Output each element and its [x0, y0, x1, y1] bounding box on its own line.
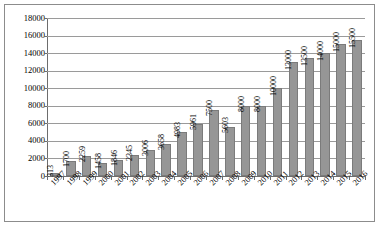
bar-value-label: 10000: [270, 76, 278, 96]
y-tick-label: 14000: [24, 49, 45, 57]
bar-slot: 2345: [127, 18, 143, 176]
y-tickmark: [44, 36, 47, 37]
bar-value-label: 1458: [95, 153, 103, 169]
bar-slot: 15000: [333, 18, 349, 176]
bar-value-label: 1700: [63, 151, 71, 167]
bar-slot: 7500: [206, 18, 222, 176]
bar: [305, 58, 315, 177]
bar: [209, 110, 219, 176]
bar: [289, 62, 299, 176]
y-tick-label: 10000: [24, 84, 45, 92]
bar-value-label: 2259: [79, 146, 87, 162]
y-tickmark: [44, 71, 47, 72]
y-tickmark: [44, 106, 47, 107]
bar-slot: 10000: [270, 18, 286, 176]
y-tickmark: [44, 18, 47, 19]
bar-series: 3131700225914581846234530063658498359617…: [47, 18, 365, 176]
bar-value-label: 5961: [190, 114, 198, 130]
bar-value-label: 8000: [238, 96, 246, 112]
bar-value-label: 2345: [126, 145, 134, 161]
bar-value-label: 3658: [158, 134, 166, 150]
bar-slot: 13500: [301, 18, 317, 176]
y-tick-label: 12000: [24, 66, 45, 74]
bar-slot: 3006: [142, 18, 158, 176]
y-tickmark: [44, 141, 47, 142]
bar: [320, 53, 330, 176]
y-tick-label: 16000: [24, 31, 45, 39]
bar-slot: 15500: [349, 18, 365, 176]
bar-value-label: 13000: [285, 50, 293, 70]
y-tick-label: 6000: [28, 119, 45, 127]
bar-slot: 13000: [286, 18, 302, 176]
bar: [241, 106, 251, 176]
bar-value-label: 5603: [222, 117, 230, 133]
y-tickmark: [44, 53, 47, 54]
bar-slot: 1700: [63, 18, 79, 176]
y-tick-label: 18000: [24, 14, 45, 22]
bar-slot: 8000: [238, 18, 254, 176]
bar-slot: 2259: [79, 18, 95, 176]
bar: [273, 88, 283, 176]
bar-slot: 3658: [158, 18, 174, 176]
bar-slot: 5603: [222, 18, 238, 176]
y-tickmark: [44, 88, 47, 89]
bar: [193, 124, 203, 176]
bar: [257, 106, 267, 176]
bar-value-label: 8000: [254, 96, 262, 112]
bar-value-label: 1846: [111, 150, 119, 166]
bar-value-label: 13500: [301, 46, 309, 66]
chart-frame: 0200040006000800010000120001400016000180…: [4, 4, 375, 222]
bar-value-label: 15000: [333, 32, 341, 52]
bar: [352, 40, 362, 176]
plot-area: 3131700225914581846234530063658498359617…: [47, 18, 365, 176]
bar-value-label: 3006: [142, 140, 150, 156]
bar-value-label: 4983: [174, 122, 182, 138]
bar-slot: 5961: [190, 18, 206, 176]
y-tick-label: 8000: [28, 101, 45, 109]
y-tick-label: 4000: [28, 136, 45, 144]
bar-slot: 8000: [254, 18, 270, 176]
bar-slot: 1458: [95, 18, 111, 176]
bar-slot: 313: [47, 18, 63, 176]
bar-slot: 4983: [174, 18, 190, 176]
bar-value-label: 14000: [317, 41, 325, 61]
bar: [336, 44, 346, 176]
y-tickmark: [44, 158, 47, 159]
y-tickmark: [44, 123, 47, 124]
bar-slot: 14000: [317, 18, 333, 176]
bar-value-label: 15500: [349, 28, 357, 48]
y-tick-label: 2000: [28, 154, 45, 162]
x-axis-tick-labels: 1997199819992000200120022003200420052006…: [47, 181, 365, 221]
bar-value-label: 7500: [206, 100, 214, 116]
y-axis-tick-labels: 0200040006000800010000120001400016000180…: [5, 18, 45, 176]
